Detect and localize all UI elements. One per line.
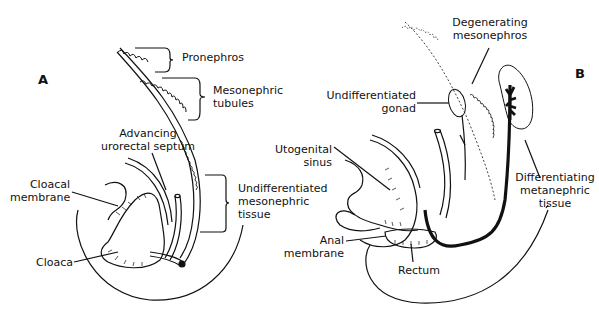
label-line: tissue xyxy=(238,208,328,221)
label-undifferentiated-mesonephric-tissue: Undifferentiated mesonephric tissue xyxy=(238,182,328,221)
label-line: Undifferentiated xyxy=(320,89,416,102)
label-line: metanephric xyxy=(510,184,599,197)
label-line: Differentiating xyxy=(510,171,599,184)
label-line: tubules xyxy=(213,97,283,110)
label-mesonephric-tubules: Mesonephric tubules xyxy=(213,84,283,110)
label-line: Anal xyxy=(280,234,344,247)
label-undifferentiated-gonad: Undifferentiated gonad xyxy=(320,89,416,115)
label-urogenital-sinus: Utogenital sinus xyxy=(262,143,332,169)
label-line: Undifferentiated xyxy=(238,182,328,195)
label-cloaca: Cloaca xyxy=(36,256,73,269)
label-anal-membrane: Anal membrane xyxy=(280,234,344,260)
label-cloacal-membrane: Cloacal membrane xyxy=(10,178,70,204)
label-line: Utogenital xyxy=(262,143,332,156)
label-line: mesonephric xyxy=(238,195,328,208)
label-line: Degenerating xyxy=(448,16,532,29)
panel-label-a: A xyxy=(38,72,48,87)
label-differentiating-metanephric-tissue: Differentiating metanephric tissue xyxy=(510,171,599,210)
panel-b-drawing xyxy=(334,22,548,303)
label-line: urorectal septum xyxy=(92,140,204,153)
label-line: tissue xyxy=(510,197,599,210)
label-line: membrane xyxy=(10,191,70,204)
label-pronephros: Pronephros xyxy=(182,51,244,64)
label-line: Advancing xyxy=(92,127,204,140)
label-rectum: Rectum xyxy=(398,264,440,277)
label-line: membrane xyxy=(280,247,344,260)
panel-label-b: B xyxy=(575,66,585,81)
label-line: Mesonephric xyxy=(213,84,283,97)
label-degenerating-mesonephros: Degenerating mesonephros xyxy=(448,16,532,42)
label-line: gonad xyxy=(320,102,416,115)
label-line: Cloacal xyxy=(10,178,70,191)
label-line: mesonephros xyxy=(448,29,532,42)
label-line: sinus xyxy=(262,156,332,169)
label-advancing-urorectal-septum: Advancing urorectal septum xyxy=(92,127,204,153)
